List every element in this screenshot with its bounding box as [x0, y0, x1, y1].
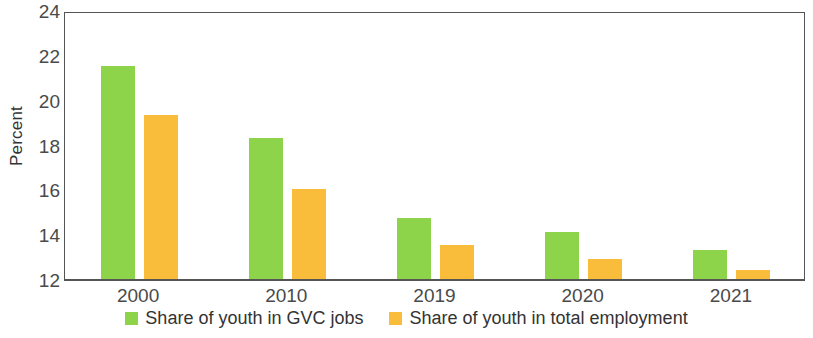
y-axis-tick-22: 22 — [20, 46, 60, 68]
legend-entry-2: Share of youth in total employment — [389, 309, 687, 327]
plot-area — [64, 12, 805, 281]
y-axis-tick-14: 14 — [20, 225, 60, 247]
legend-swatch-green — [125, 312, 138, 325]
y-axis-tick-20: 20 — [20, 91, 60, 113]
bar-chart-figure: Percent 12141618202224 20002010201920202… — [0, 0, 813, 338]
legend-entry-1: Share of youth in GVC jobs — [125, 309, 363, 327]
chart-legend: Share of youth in GVC jobsShare of youth… — [0, 309, 813, 327]
x-axis-tick-2000: 2000 — [78, 285, 198, 307]
bar-2021-series-1 — [693, 250, 727, 279]
x-axis-tick-2010: 2010 — [226, 285, 346, 307]
bar-2020-series-2 — [588, 259, 622, 279]
bar-group-2020 — [545, 13, 622, 279]
bar-group-2021 — [693, 13, 770, 279]
y-axis-tick-24: 24 — [20, 1, 60, 23]
y-axis-tick-labels: 12141618202224 — [20, 0, 60, 300]
bar-2019-series-2 — [440, 245, 474, 279]
bar-2000-series-2 — [144, 115, 178, 279]
bar-group-2010 — [249, 13, 326, 279]
bar-group-2019 — [397, 13, 474, 279]
y-axis-tick-18: 18 — [20, 136, 60, 158]
bar-2021-series-2 — [736, 270, 770, 279]
bar-2020-series-1 — [545, 232, 579, 279]
bar-2010-series-2 — [292, 189, 326, 279]
legend-label-2: Share of youth in total employment — [409, 309, 687, 327]
x-axis-tick-2019: 2019 — [375, 285, 495, 307]
x-axis-tick-2021: 2021 — [671, 285, 791, 307]
y-axis-tick-16: 16 — [20, 180, 60, 202]
x-axis-tick-2020: 2020 — [523, 285, 643, 307]
legend-label-1: Share of youth in GVC jobs — [145, 309, 363, 327]
bar-2019-series-1 — [397, 218, 431, 279]
legend-swatch-orange — [389, 312, 402, 325]
bar-groups — [65, 13, 804, 279]
bar-2010-series-1 — [249, 138, 283, 279]
bar-group-2000 — [101, 13, 178, 279]
y-axis-tick-12: 12 — [20, 270, 60, 292]
bar-2000-series-1 — [101, 66, 135, 279]
